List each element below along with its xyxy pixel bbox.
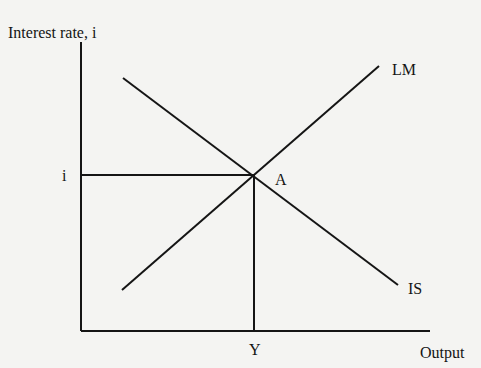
equilibrium-interest-label: i (62, 168, 66, 184)
equilibrium-output-label: Y (249, 342, 261, 358)
y-axis-label: Interest rate, i (8, 25, 96, 41)
lm-curve (122, 66, 379, 290)
is-curve-label: IS (408, 281, 422, 297)
equilibrium-point-label: A (275, 172, 287, 188)
is-lm-diagram (0, 0, 481, 368)
x-axis-label: Output (420, 345, 464, 361)
lm-curve-label: LM (392, 62, 416, 78)
